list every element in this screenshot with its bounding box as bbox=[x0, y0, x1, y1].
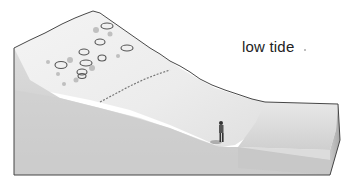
tide-label: low tide bbox=[242, 38, 294, 55]
label-marker-dot bbox=[304, 49, 306, 51]
beach-block-illustration bbox=[0, 0, 354, 185]
beach-profile-diagram: low tide bbox=[0, 0, 354, 185]
